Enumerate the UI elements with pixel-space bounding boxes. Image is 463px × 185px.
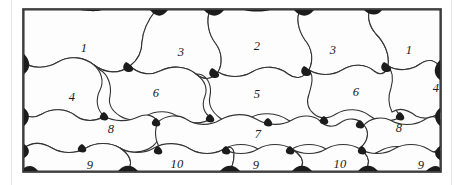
page-margin-rule-right [451,0,452,185]
page-canvas: 1 3 2 3 1 4 6 5 6 4 8 7 8 9 10 9 10 9 [0,0,463,185]
cell-label-r2c4: 6 [353,85,360,100]
cell-label-r2c3: 5 [254,87,261,102]
cell-label-r3c2: 7 [255,127,262,142]
cell-label-r1c1: 1 [81,41,88,56]
cell-label-r4c4: 10 [333,157,346,172]
cell-label-r1c5: 1 [406,43,413,58]
cell-label-r4c1: 9 [87,158,94,173]
cell-label-r1c2: 3 [178,45,185,60]
tessellation-svg [22,8,442,173]
cell-label-r1c4: 3 [330,43,337,58]
cell-label-r4c3: 9 [253,158,260,173]
cell-label-r2c1: 4 [69,90,76,105]
cell-label-r3c3: 8 [396,121,403,136]
cell-label-r4c5: 9 [418,158,425,173]
cell-label-r2c5: 4 [433,81,440,96]
cell-label-r4c2: 10 [170,157,183,172]
tessellation-figure: 1 3 2 3 1 4 6 5 6 4 8 7 8 9 10 9 10 9 [22,8,442,173]
cell-label-r2c2: 6 [153,86,160,101]
cell-label-r1c3: 2 [254,39,261,54]
cell-label-r3c1: 8 [108,122,115,137]
page-margin-rule-left [11,0,12,185]
